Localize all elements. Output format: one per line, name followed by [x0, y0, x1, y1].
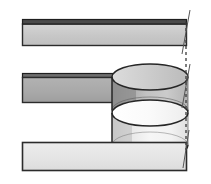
- top-plate-body: [23, 24, 187, 46]
- technical-section-diagram: [0, 0, 211, 184]
- bottom-plate-body: [23, 143, 187, 171]
- bottom-plate-group: [23, 143, 187, 171]
- top-plate-top-edge: [23, 20, 187, 25]
- cylinder-lower-top-ellipse: [112, 100, 188, 126]
- figure-root: [0, 0, 211, 184]
- top-plate-group: [23, 20, 187, 46]
- cylinder-upper-top-ellipse: [112, 64, 188, 90]
